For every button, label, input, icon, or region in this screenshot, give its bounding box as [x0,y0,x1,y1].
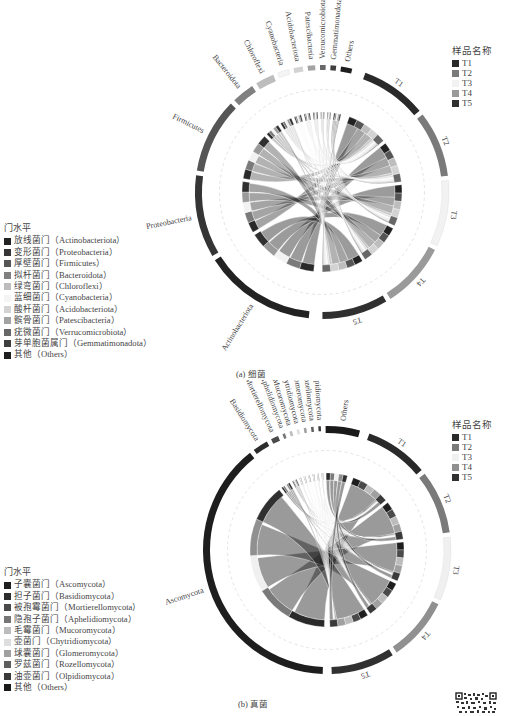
phylum-legend-item: 担子菌门（Basidiomycota） [4,591,141,602]
inner-ring-segment [322,265,330,272]
phylum-legend-item: 放线菌门（Actinobacteriota） [4,235,152,246]
sample-arc-t4 [393,601,439,652]
group-arc-firmicutes [197,104,236,172]
legend-swatch [452,464,459,471]
phylum-legend-item: 罗兹菌门（Rozellomycota） [4,659,141,670]
legend-swatch [4,283,11,290]
legend-label: 担子菌门（Basidiomycota） [14,591,120,602]
phylum-legend-item: 壶菌门（Chytridiomycota） [4,636,141,647]
legend-label: 髌骨菌门（Patescibacteria） [14,315,120,326]
phylum-legend-item: 芽单胞菌属门（Gemmatimonadota） [4,338,152,349]
legend-swatch [4,272,11,279]
group-arc-acidobacteriota [293,66,303,73]
sample-legend-fungi: 样品名称 T1T2T3T4T5 [452,420,492,482]
phylum-legend-item: 隐孢子菌门（Aphelidiomycota） [4,614,141,625]
sample-legend-item: T2 [452,68,492,78]
qr-code-icon [455,692,497,714]
legend-label: 疣微菌门（Verrucomicrobiota） [14,327,132,338]
legend-swatch [452,454,459,461]
legend-label: 子囊菌门（Ascomycota） [14,579,111,590]
arc-label: Chloroflexi [242,38,267,76]
legend-label: 罗兹菌门（Rozellomycota） [14,659,120,670]
phylum-legend-item: 蓝细菌门（Cyanobacteria） [4,292,152,303]
legend-label: T5 [462,98,472,108]
legend-label: T5 [462,472,472,482]
legend-label: 毛霉菌门（Mucoromycota） [14,625,121,636]
arc-label: Gemmatimonadota [329,0,344,60]
legend-label: 隐孢子菌门（Aphelidiomycota） [14,614,137,625]
sample-arc-t1 [367,433,422,474]
phylum-legend-title: 门水平 [4,567,141,578]
sample-arc-t4 [387,247,435,299]
legend-swatch [452,474,459,481]
sample-legend-item: T5 [452,472,492,482]
sample-legend-item: T1 [452,58,492,68]
arc-label: T5 [352,315,363,326]
inner-ring-segment [395,531,403,540]
legend-swatch [4,616,11,623]
sample-legend-title: 样品名称 [452,46,492,56]
legend-label: 酸杆菌门（Acidobacteriota） [14,304,123,315]
legend-swatch [4,238,11,245]
legend-swatch [4,593,11,600]
legend-swatch [4,295,11,302]
legend-label: 芽单胞菌属门（Gemmatimonadota） [14,338,152,349]
group-arc-others [340,66,352,73]
legend-label: 其他（Others） [14,349,73,360]
legend-swatch [4,306,11,313]
arc-label: Ascomycota [164,586,205,607]
group-arc-others [326,426,360,437]
arc-label: Cyanobacteria [264,20,287,67]
arc-label: T4 [415,276,428,289]
legend-swatch [452,70,459,77]
phylum-legend-item: 髌骨菌门（Patescibacteria） [4,315,152,326]
legend-swatch [4,249,11,256]
inner-ring-segment [393,173,401,182]
inner-ring-segment [397,550,404,558]
arc-label: T2 [441,493,453,505]
panel-bacteria: ActinobacteriotaProteobacteriaFirmicutes… [0,0,505,380]
inner-ring-segment [330,263,339,271]
sample-legend-item: T3 [452,452,492,462]
arc-label: T4 [419,629,432,642]
legend-label: T3 [462,452,472,462]
legend-swatch [4,661,11,668]
legend-swatch [4,627,11,634]
arc-label: Bacteroidota [211,53,244,91]
arc-label: Others [339,399,351,421]
sample-arc-t5 [331,649,392,674]
group-arc-mortierellomycota [271,436,280,444]
arc-label: Acidobacteriota [283,10,302,62]
sample-arc-t3 [434,537,451,600]
legend-label: 其他（Others） [14,682,73,693]
panel-fungi: AscomycotaBasidiomycotaMortierellomycota… [0,380,505,716]
legend-swatch [4,352,11,359]
group-arc-aphelidiomycota [282,433,286,439]
inner-ring-segment [323,112,324,119]
phylum-legend-item: 毛霉菌门（Mucoromycota） [4,625,141,636]
legend-label: T3 [462,78,472,88]
phylum-legend-item: 其他（Others） [4,682,141,693]
group-arc-olpidiomycota [318,426,321,431]
legend-swatch [4,582,11,589]
legend-swatch [4,329,11,336]
legend-label: 放线菌门（Actinobacteriota） [14,235,125,246]
arc-label: T5 [360,669,371,680]
inner-ring-segment [395,185,402,193]
legend-label: 厚壁菌门（Firmicutes） [14,258,105,269]
arc-label: Patescibacteria [303,11,316,60]
phylum-legend-fungi: 门水平 子囊菌门（Ascomycota）担子菌门（Basidiomycota）被… [4,567,141,693]
phylum-legend-item: 酸杆菌门（Acidobacteriota） [4,304,152,315]
arc-label: Proteobacteria [145,213,193,231]
phylum-legend-item: 厚壁菌门（Firmicutes） [4,258,152,269]
sample-legend-item: T3 [452,78,492,88]
arc-label: Verrucomicrobiota [318,0,327,59]
sample-legend-item: T4 [452,462,492,472]
legend-label: 拟杆菌门（Bacteroidota） [14,270,112,281]
group-arc-cyanobacteria [278,69,290,77]
arc-label: T1 [396,437,408,449]
legend-swatch [4,317,11,324]
group-arc-mucoromycota [289,431,293,437]
sample-arc-t3 [431,180,449,245]
legend-swatch [452,100,459,107]
